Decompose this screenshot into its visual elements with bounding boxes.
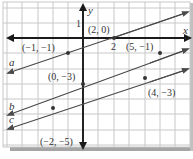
point-c2 [143,76,147,80]
x-tick-label: 2 [111,41,116,52]
point-a1-label: (−1, −1) [22,42,55,54]
y-tick-label: 1 [76,18,81,29]
x-axis-label: x [182,24,188,36]
point-b1 [81,82,85,86]
line-b-label: b [9,100,15,112]
point-a1 [66,51,70,55]
point-a2 [112,36,116,40]
frame-shadow-bottom [10,147,193,151]
point-c1 [51,106,55,110]
point-c2-label: (4, −3) [148,87,175,99]
point-b2-label: (5, −1) [126,41,153,53]
point-b2 [158,51,162,55]
point-a2-label: (2, 0) [88,24,110,36]
point-b1-label: (0, −3) [48,71,75,83]
coordinate-graph: y x 1 2 a b c (−1, −1) (2, 0) (0, −3) (5… [0,0,193,159]
line-a-label: a [9,56,15,68]
y-axis-label: y [87,4,93,16]
point-c1-label: (−2, −5) [40,136,73,148]
line-c-label: c [9,113,14,125]
